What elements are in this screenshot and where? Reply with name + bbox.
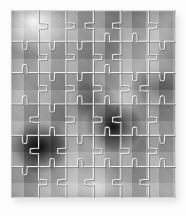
puzzle-cut-lines-svg: [11, 10, 176, 198]
jigsaw-puzzle: [11, 10, 176, 198]
puzzle-cut-lines: [11, 10, 176, 198]
cut-line-group: [11, 10, 176, 198]
puzzle-image-canvas: [0, 0, 186, 216]
